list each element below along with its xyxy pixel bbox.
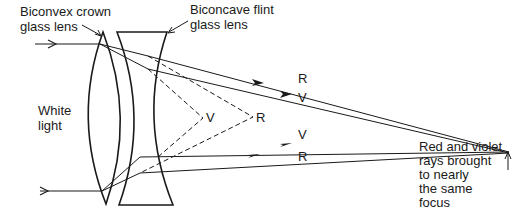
upper-incoming-ray — [35, 40, 509, 153]
flint-label-leader — [169, 21, 188, 32]
biconvex-crown-lens — [88, 32, 120, 204]
upper-red-label: R — [298, 72, 307, 86]
focus-note-label: Red and violet rays brought to nearly th… — [419, 140, 502, 210]
virtual-violet-label: V — [206, 111, 215, 125]
white-light-label: White light — [38, 103, 71, 133]
biconcave-flint-lens — [117, 32, 173, 205]
virtual-red-label: R — [256, 111, 265, 125]
crown-lens-label: Biconvex crown glass lens — [20, 4, 111, 34]
flint-lens-label: Biconcave flint glass lens — [190, 2, 274, 32]
lower-violet-label: V — [298, 128, 307, 142]
upper-violet-label: V — [298, 91, 307, 105]
lower-red-label: R — [298, 150, 307, 164]
